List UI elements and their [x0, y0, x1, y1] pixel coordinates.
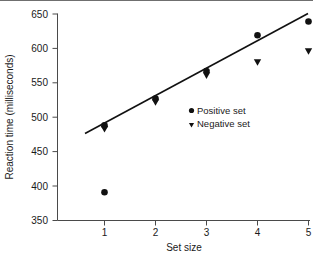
x-axis-title: Set size: [166, 242, 202, 253]
data-point-positive: [305, 18, 312, 25]
x-tick-label: 4: [255, 227, 261, 238]
y-axis-tick-labels: 350 400 450 500 550 600 650: [31, 9, 48, 227]
data-point-positive: [203, 68, 210, 75]
data-point-negative: [305, 48, 312, 55]
x-tick-label: 5: [306, 227, 312, 238]
y-tick-label: 350: [31, 215, 48, 226]
legend-marker-triangle-icon: [189, 123, 194, 128]
y-tick-label: 500: [31, 112, 48, 123]
data-point-negative: [254, 59, 261, 66]
y-tick-label: 600: [31, 43, 48, 54]
y-tick-label: 550: [31, 77, 48, 88]
scatter-plot-figure: 350 400 450 500 550 600 650 1 2 3 4 5 Se…: [0, 0, 313, 257]
x-axis-ticks: [105, 221, 309, 226]
chart-canvas: 350 400 450 500 550 600 650 1 2 3 4 5 Se…: [0, 0, 313, 257]
x-tick-label: 1: [102, 227, 108, 238]
y-axis-title: Reaction time (milliseconds): [4, 54, 15, 179]
chart-legend: Positive set Negative set: [189, 105, 250, 129]
legend-marker-circle-icon: [189, 108, 194, 113]
y-tick-label: 650: [31, 9, 48, 20]
x-axis-tick-labels: 1 2 3 4 5: [102, 227, 312, 238]
x-tick-label: 3: [204, 227, 210, 238]
y-tick-label: 450: [31, 146, 48, 157]
x-tick-label: 2: [153, 227, 159, 238]
legend-label-negative: Negative set: [197, 118, 250, 129]
data-point-positive: [254, 32, 261, 39]
legend-label-positive: Positive set: [197, 105, 246, 116]
data-point-positive: [101, 122, 108, 129]
axis-spines: [58, 14, 311, 221]
data-point-positive: [152, 95, 159, 102]
y-axis-ticks: [53, 14, 58, 221]
data-point-positive: [101, 189, 108, 196]
y-tick-label: 400: [31, 181, 48, 192]
